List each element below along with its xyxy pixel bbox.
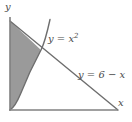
x-axis-label: x [118,98,124,108]
figure-canvas [0,0,132,122]
curve-equation-label: y = x2 [48,33,79,44]
line-equation-label: y = 6 − x [78,70,125,80]
y-axis-label: y [5,2,11,12]
curve-equation-base: y = x [48,33,74,44]
math-figure: y x y = x2 y = 6 − x [0,0,132,122]
curve-equation-exponent: 2 [74,32,78,40]
